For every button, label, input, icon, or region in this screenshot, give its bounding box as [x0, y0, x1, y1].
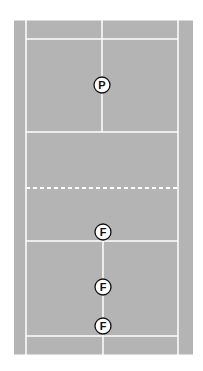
marker-label: P	[98, 79, 105, 91]
marker-f-3: F	[95, 318, 111, 334]
court-diagram: PFFF	[0, 0, 203, 371]
marker-p-0: P	[94, 77, 110, 93]
marker-f-2: F	[95, 279, 111, 295]
marker-label: F	[100, 281, 107, 293]
marker-f-1: F	[95, 224, 111, 240]
marker-label: F	[100, 320, 107, 332]
marker-label: F	[100, 226, 107, 238]
